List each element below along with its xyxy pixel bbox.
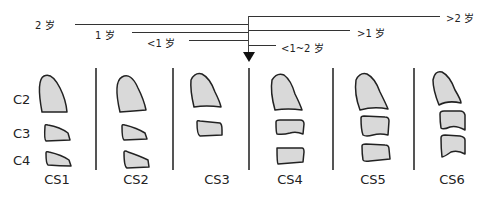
column-divider-2: [172, 68, 174, 170]
cs5-c3-vertebra: [361, 116, 389, 136]
cs2-c4-vertebra: [124, 151, 149, 168]
cs5-c4-vertebra: [362, 144, 390, 161]
cs6-c3-vertebra: [440, 111, 465, 130]
cs4-c4-vertebra: [277, 148, 304, 164]
column-divider-3: [248, 68, 250, 170]
cs2-c2-vertebra: [117, 76, 146, 112]
vertebra-label-c4: C4: [13, 153, 30, 168]
cs1-c2-vertebra: [39, 75, 67, 112]
cs1-c4-vertebra: [46, 152, 71, 166]
arrow-down-icon: [243, 52, 255, 62]
cs5-c2-vertebra: [356, 74, 389, 110]
vertebra-label-c3: C3: [13, 126, 30, 141]
column-divider-5: [413, 68, 415, 170]
column-divider-1: [95, 68, 97, 170]
cs6-c4-vertebra: [441, 135, 465, 157]
stage-label-cs4: CS4: [260, 172, 320, 187]
stage-label-cs1: CS1: [27, 172, 87, 187]
stage-label-cs3: CS3: [187, 172, 247, 187]
stage-label-cs6: CS6: [422, 172, 482, 187]
vertebrae-diagram: [0, 0, 483, 198]
column-divider-4: [332, 68, 334, 170]
stage-label-cs2: CS2: [106, 172, 166, 187]
cs2-c3-vertebra: [122, 125, 147, 140]
cs3-c2-vertebra: [191, 74, 221, 107]
cs1-c3-vertebra: [45, 125, 70, 141]
cs3-c3-vertebra: [197, 121, 222, 136]
vertebra-label-c2: C2: [13, 92, 30, 107]
stage-label-cs5: CS5: [343, 172, 403, 187]
cs6-c2-vertebra: [433, 72, 461, 105]
cs4-c3-vertebra: [276, 120, 304, 134]
cs4-c2-vertebra: [271, 74, 302, 110]
